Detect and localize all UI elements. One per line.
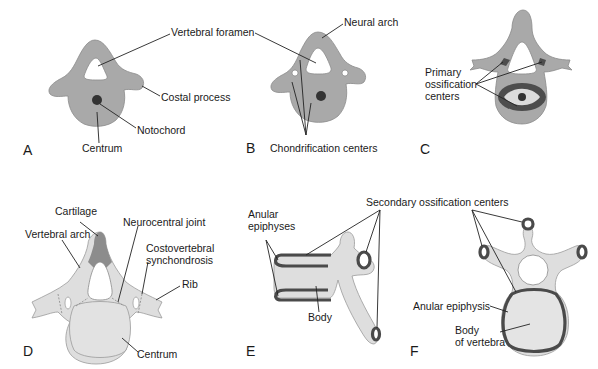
label-rib: Rib	[182, 278, 198, 290]
label-chondrification-centers: Chondrification centers	[270, 142, 377, 154]
panel-f-secondary-ossification-left	[480, 246, 488, 258]
panel-e-secondary-ossification-spinous	[373, 328, 380, 340]
panel-letter-a: A	[23, 142, 33, 158]
label-primary-ossification-1: Primary	[425, 66, 462, 78]
panel-e-vertebra-shape	[274, 232, 378, 344]
panel-b: Neural arch Chondrification centers B	[246, 16, 398, 156]
panel-f: Secondary ossification centers Anular ep…	[366, 196, 586, 359]
panel-b-notochord	[316, 91, 326, 101]
label-costal-process: Costal process	[161, 91, 230, 103]
label-body-f-1: Body	[455, 324, 480, 336]
label-costovertebral-1: Costovertebral	[146, 242, 214, 254]
label-centrum-d: Centrum	[137, 348, 178, 360]
panel-f-anular-epiphysis	[503, 290, 565, 352]
panel-b-chondrification-center-right	[342, 70, 348, 76]
panel-b-chondrification-center-left	[292, 70, 298, 76]
label-notochord: Notochord	[137, 124, 186, 136]
panel-f-vertebral-foramen	[518, 255, 548, 285]
label-anular-1: Anular	[248, 208, 279, 220]
label-centrum-a: Centrum	[82, 142, 123, 154]
panel-d-centrum	[70, 302, 131, 358]
panel-letter-c: C	[420, 141, 430, 157]
panel-d-rib-foramen-left	[65, 297, 71, 309]
label-vertebral-arch: Vertebral arch	[25, 228, 91, 240]
label-costovertebral-2: synchondrosis	[146, 254, 213, 266]
panel-f-secondary-ossification-spinous	[523, 219, 533, 229]
panel-c: Primary ossification centers C	[420, 10, 572, 157]
panel-c-notochord	[518, 93, 526, 101]
panel-a-notochord	[92, 95, 102, 105]
label-neural-arch: Neural arch	[344, 16, 398, 28]
label-anular-2: epiphyses	[248, 220, 295, 232]
label-secondary-ossification: Secondary ossification centers	[366, 196, 508, 208]
label-vertebral-foramen: Vertebral foramen	[171, 26, 255, 38]
label-primary-ossification-2: ossification	[425, 78, 477, 90]
panel-letter-b: B	[246, 140, 255, 156]
panel-a-vertebra-shape	[49, 40, 144, 126]
label-primary-ossification-3: centers	[425, 90, 459, 102]
label-body-e: Body	[308, 311, 333, 323]
panel-d: Cartilage Vertebral arch Neurocentral jo…	[23, 205, 214, 364]
label-body-f-2: of vertebra	[455, 336, 505, 348]
panel-a: Vertebral foramen Costal process Notocho…	[23, 26, 255, 158]
panel-f-secondary-ossification-right	[578, 246, 586, 258]
panel-letter-e: E	[246, 343, 255, 359]
panel-e: Anular epiphyses Body E	[246, 208, 380, 359]
vertebra-development-diagram: Vertebral foramen Costal process Notocho…	[0, 0, 598, 369]
label-neurocentral-joint: Neurocentral joint	[123, 216, 205, 228]
panel-letter-f: F	[410, 343, 419, 359]
panel-d-rib-foramen-right	[133, 297, 139, 309]
panel-b-vertebra-shape	[271, 32, 366, 122]
label-anular-epiphysis: Anular epiphysis	[413, 300, 490, 312]
panel-e-secondary-ossification-transverse	[358, 252, 370, 268]
panel-letter-d: D	[23, 343, 33, 359]
label-cartilage: Cartilage	[55, 205, 97, 217]
